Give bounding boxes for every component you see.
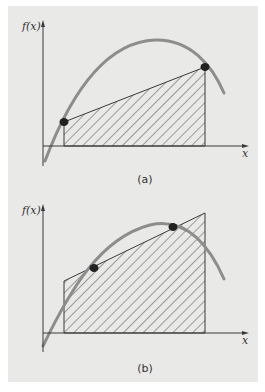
caption-a: (a)	[137, 173, 152, 186]
point-x2	[169, 223, 178, 231]
trapezoid-area-a	[60, 60, 210, 150]
caption-b: (b)	[137, 362, 153, 375]
x-axis-label-a: x	[242, 147, 249, 160]
y-axis-label-a: f(x)	[21, 20, 41, 33]
y-axis-label-b: f(x)	[21, 204, 41, 217]
trapezoid-area-b	[60, 208, 210, 338]
y-axis-arrow-icon	[41, 20, 45, 27]
panel-b	[41, 204, 249, 352]
panel-a	[41, 20, 249, 166]
point-fa	[60, 118, 69, 126]
x-axis-label-b: x	[242, 334, 249, 347]
point-x1	[90, 264, 99, 272]
point-fb	[201, 63, 210, 71]
y-axis-arrow-icon	[41, 204, 45, 211]
figure-canvas: f(x) x (a) f(x) x (b)	[0, 0, 265, 392]
